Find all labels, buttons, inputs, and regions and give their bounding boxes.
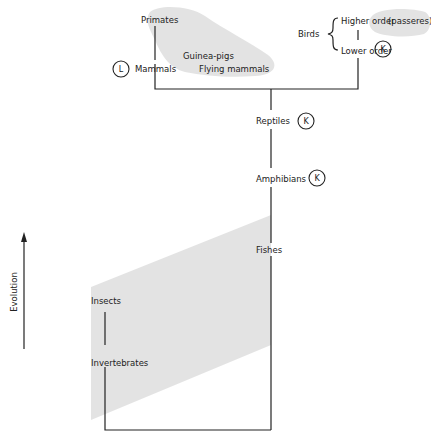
label-insects: Insects [91, 296, 122, 306]
marker-reptiles: K [298, 113, 314, 129]
marker-amphibians: K [309, 170, 325, 186]
marker-label: K [303, 117, 309, 126]
evolution-diagram: Evolution Primates Mammals Guinea-pigs F… [0, 0, 431, 440]
evolution-axis: Evolution [9, 232, 27, 349]
marker-label: K [314, 174, 320, 183]
birds-brace [328, 18, 338, 50]
marker-mammals: L [113, 61, 129, 77]
label-birds-higher-order: Higher order [341, 16, 395, 26]
label-birds: Birds [298, 29, 320, 39]
label-flying-mammals: Flying mammals [199, 64, 270, 74]
arrow-up-icon [21, 232, 27, 242]
label-fishes: Fishes [256, 245, 283, 255]
label-invertebrates: Invertebrates [91, 358, 149, 368]
label-reptiles: Reptiles [256, 116, 290, 126]
label-guinea-pigs: Guinea-pigs [183, 51, 234, 61]
label-passeres: (passeres) [388, 16, 431, 26]
label-mammals: Mammals [135, 64, 177, 74]
invertebrates-shaded-region [91, 215, 271, 420]
marker-label: K [380, 45, 386, 54]
marker-label: L [119, 65, 124, 74]
label-amphibians: Amphibians [256, 174, 307, 184]
label-primates: Primates [141, 15, 179, 25]
evolution-axis-label: Evolution [9, 272, 19, 312]
